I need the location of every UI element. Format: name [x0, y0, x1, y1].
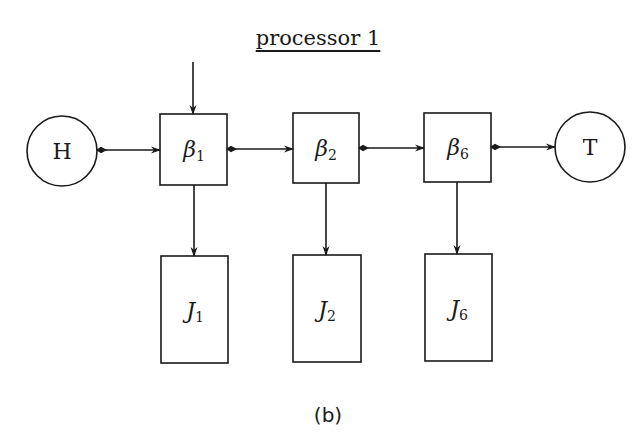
figure-caption: (b)	[314, 403, 342, 427]
head-node-label: H	[52, 139, 71, 164]
job2-label: J2	[318, 297, 336, 324]
beta2-subscript: 2	[328, 147, 337, 163]
diagram-title: processor 1	[256, 26, 381, 50]
job1-symbol: J	[186, 298, 195, 323]
diagram-canvas	[0, 0, 643, 445]
job2-subscript: 2	[327, 308, 336, 324]
beta6-label: β6	[447, 135, 469, 162]
job2-symbol: J	[318, 297, 327, 322]
job6-label: J6	[450, 296, 468, 323]
beta1-label: β1	[183, 137, 205, 164]
beta6-subscript: 6	[460, 146, 469, 162]
beta6-symbol: β	[447, 135, 460, 160]
job6-subscript: 6	[459, 307, 468, 323]
tail-node-label: T	[583, 135, 598, 160]
job1-subscript: 1	[195, 309, 204, 325]
beta1-subscript: 1	[196, 148, 205, 164]
beta2-symbol: β	[315, 136, 328, 161]
job6-symbol: J	[450, 296, 459, 321]
job1-label: J1	[186, 298, 204, 325]
beta1-symbol: β	[183, 137, 196, 162]
beta2-label: β2	[315, 136, 337, 163]
